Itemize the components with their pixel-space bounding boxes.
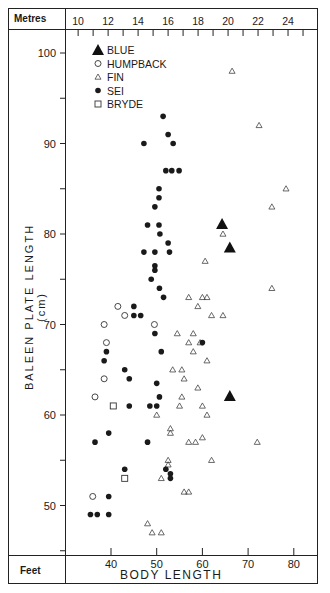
sei-data-point [160,114,166,120]
sei-data-point [163,467,169,473]
sei-data-point [88,512,94,518]
fin-data-point [283,186,289,191]
sei-data-point [169,168,175,174]
scatter-plot: 101214161820222440506070805060708090100B… [0,0,330,593]
humpback-data-point [101,376,107,382]
fin-data-point [158,475,164,480]
fin-data-point [204,294,210,299]
sei-data-point [138,313,144,319]
fin-data-point [186,439,192,444]
sei-data-point [126,376,132,382]
fin-data-point [154,412,160,417]
sei-data-point [161,295,167,301]
fin-data-point [269,285,275,290]
fin-data-point [195,303,201,308]
sei-data-point [141,141,147,147]
fin-data-point [158,530,164,535]
fin-data-point [190,331,196,336]
fin-data-point [204,358,210,363]
legend-icon-bryde [95,101,101,107]
sei-data-point [200,340,206,346]
sei-data-point [156,195,162,201]
sei-data-point [145,439,151,445]
fin-data-point [256,122,262,127]
sei-data-point [152,249,158,255]
fin-data-point [186,294,192,299]
sei-data-point [167,249,173,255]
sei-data-point [141,249,147,255]
fin-data-point [174,331,180,336]
sei-data-point [148,276,154,282]
sei-data-point [165,240,171,246]
feet-tick-label: 80 [288,558,300,570]
sei-data-point [154,381,160,387]
legend-label-sei: SEI [107,85,124,97]
sei-data-point [176,168,182,174]
fin-data-point [186,340,192,345]
sei-data-point [157,286,163,292]
metres-tick-label: 12 [102,15,114,27]
feet-tick-label: 70 [242,558,254,570]
bryde-data-point [122,475,128,481]
legend-icon-fin [95,74,101,79]
metres-tick-label: 24 [282,15,294,27]
fin-data-point [179,394,185,399]
sei-data-point [101,358,107,364]
feet-tick-label: 60 [196,558,208,570]
blue-data-point [216,218,228,229]
sei-data-point [152,331,158,337]
legend-icon-blue [92,44,104,55]
sei-data-point [131,313,137,319]
legend-label-humpback: HUMPBACK [107,58,167,70]
sei-data-point [157,394,163,400]
feet-tick-label: 40 [105,558,117,570]
sei-data-point [152,267,158,273]
legend-label-blue: BLUE [107,44,134,56]
fin-data-point [190,349,196,354]
metres-tick-label: 10 [72,15,84,27]
fin-data-point [199,435,205,440]
fin-data-point [145,521,151,526]
sei-data-point [158,349,164,355]
bryde-data-point [110,403,116,409]
sei-data-point [106,494,112,500]
fin-data-point [220,231,226,236]
sei-data-point [147,403,153,409]
fin-data-point [220,312,226,317]
sei-data-point [156,222,162,228]
blue-data-point [224,241,236,252]
y-tick-label: 100 [38,47,56,59]
y-tick-label: 90 [44,138,56,150]
humpback-data-point [92,394,98,400]
sei-data-point [165,132,171,138]
sei-data-point [168,476,174,482]
fin-data-point [229,68,235,73]
sei-data-point [126,403,132,409]
sei-data-point [154,403,160,409]
sei-data-point [170,141,176,147]
fin-data-point [179,367,185,372]
sei-data-point [104,349,110,355]
humpback-data-point [151,322,157,328]
fin-data-point [177,403,183,408]
fin-data-point [209,312,215,317]
metres-tick-label: 20 [222,15,234,27]
sei-data-point [106,512,112,518]
fin-data-point [170,367,176,372]
sei-data-point [106,430,112,436]
humpback-data-point [103,340,109,346]
legend-icon-sei [95,88,101,94]
fin-data-point [202,258,208,263]
fin-data-point [181,376,187,381]
sei-data-point [152,204,158,210]
fin-data-point [209,457,215,462]
legend-label-bryde: BRYDE [107,98,143,110]
metres-tick-label: 16 [162,15,174,27]
humpback-data-point [101,322,107,328]
legend-label-fin: FIN [107,71,124,83]
fin-data-point [199,403,205,408]
sei-data-point [145,222,151,228]
sei-data-point [92,439,98,445]
fin-data-point [195,385,201,390]
sei-data-point [94,512,100,518]
